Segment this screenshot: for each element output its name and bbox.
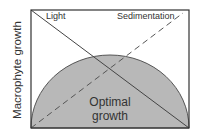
optimal-label-line1: Optimal — [89, 95, 130, 109]
sedimentation-label: Sedimentation — [117, 11, 175, 21]
y-axis-label: Macrophyte growth — [11, 21, 23, 119]
optimal-growth-label: Optimal growth — [89, 95, 130, 123]
light-label: Light — [46, 11, 66, 21]
optimal-label-line2: growth — [89, 109, 130, 123]
